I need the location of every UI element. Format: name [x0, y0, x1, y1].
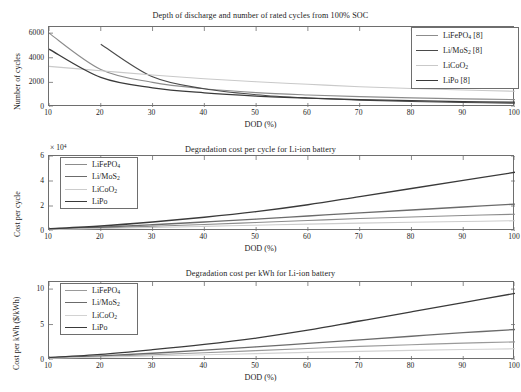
legend-item[interactable]: Li/MoS2	[61, 171, 137, 184]
legend-line-swatch	[416, 35, 438, 36]
y-tick-label: 4	[0, 176, 44, 185]
x-tick-label: 90	[458, 232, 466, 241]
x-tick-label: 40	[200, 232, 208, 241]
x-tick-label: 70	[355, 108, 363, 117]
legend-label: LiFePO4	[92, 160, 120, 169]
legend-item[interactable]: LiPo	[61, 322, 137, 335]
panel3-x-axis-label: DOD (%)	[0, 373, 521, 382]
x-tick-label: 50	[251, 232, 259, 241]
legend-item[interactable]: LiFePO4 [8]	[412, 28, 518, 43]
x-tick-label: 60	[303, 232, 311, 241]
x-tick-label: 70	[355, 361, 363, 370]
legend-line-swatch	[65, 327, 87, 328]
legend-item[interactable]: LiCoO2	[412, 58, 518, 73]
y-tick-label: 0	[0, 102, 44, 111]
x-tick-label: 70	[355, 232, 363, 241]
y-tick-label: 5	[0, 319, 44, 328]
panel2-x-axis-label: DOD (%)	[0, 244, 521, 253]
legend-label: Li/MoS2	[92, 172, 120, 181]
legend-label: LiPo [8]	[443, 76, 470, 85]
legend-line-swatch	[65, 176, 87, 177]
panel3-legend[interactable]: LiFePO4Li/MoS2LiCoO2LiPo	[60, 283, 138, 335]
legend-line-swatch	[416, 50, 438, 51]
y-tick-label: 6000	[0, 28, 44, 37]
y-tick-label: 2	[0, 201, 44, 210]
legend-line-swatch	[65, 315, 87, 316]
legend-item[interactable]: LiPo	[61, 196, 137, 209]
x-tick-label: 20	[96, 232, 104, 241]
legend-item[interactable]: Li/MoS2 [8]	[412, 43, 518, 58]
panel1-legend[interactable]: LiFePO4 [8]Li/MoS2 [8]LiCoO2LiPo [8]	[411, 27, 519, 89]
legend-line-swatch	[416, 80, 438, 81]
legend-label: LiCoO2	[92, 185, 117, 194]
legend-label: Li/MoS2	[92, 298, 120, 307]
panel-cycles-vs-dod: Depth of discharge and number of rated c…	[0, 0, 521, 134]
x-tick-label: 100	[508, 232, 519, 241]
x-tick-label: 30	[148, 108, 156, 117]
x-tick-label: 20	[96, 361, 104, 370]
panel2-legend[interactable]: LiFePO4Li/MoS2LiCoO2LiPo	[60, 157, 138, 209]
x-tick-label: 40	[200, 108, 208, 117]
legend-label: LiCoO2	[92, 311, 117, 320]
panel1-x-axis-label: DOD (%)	[0, 120, 521, 129]
x-tick-label: 50	[251, 361, 259, 370]
y-tick-label: 0	[0, 226, 44, 235]
x-tick-label: 30	[148, 232, 156, 241]
x-tick-label: 90	[458, 108, 466, 117]
panel1-title: Depth of discharge and number of rated c…	[0, 11, 521, 20]
x-tick-label: 30	[148, 361, 156, 370]
panel2-exponent-power: 4	[64, 143, 67, 149]
x-tick-label: 100	[508, 361, 519, 370]
figure-three-panel-battery-degradation: Depth of discharge and number of rated c…	[0, 0, 521, 392]
x-tick-label: 20	[96, 108, 104, 117]
x-tick-label: 80	[407, 361, 415, 370]
x-tick-label: 80	[407, 232, 415, 241]
legend-line-swatch	[65, 201, 87, 202]
legend-label: LiFePO4	[92, 286, 120, 295]
series-line	[49, 349, 515, 358]
x-tick-label: 10	[44, 232, 52, 241]
legend-item[interactable]: LiCoO2	[61, 183, 137, 196]
panel3-title: Degradation cost per kWh for Li-ion batt…	[0, 269, 521, 278]
legend-line-swatch	[65, 302, 87, 303]
panel2-title: Degradation cost per cycle for Li-ion ba…	[0, 145, 521, 154]
y-tick-label: 6	[0, 151, 44, 160]
legend-label: LiPo	[92, 323, 108, 332]
x-tick-label: 60	[303, 361, 311, 370]
legend-item[interactable]: LiCoO2	[61, 309, 137, 322]
legend-item[interactable]: LiFePO4	[61, 284, 137, 297]
panel2-exponent-base: × 10	[50, 143, 64, 152]
legend-item[interactable]: LiPo [8]	[412, 73, 518, 88]
legend-item[interactable]: Li/MoS2	[61, 297, 137, 310]
legend-line-swatch	[65, 164, 87, 165]
legend-line-swatch	[65, 189, 87, 190]
y-tick-label: 0	[0, 355, 44, 364]
y-tick-label: 2000	[0, 77, 44, 86]
x-tick-label: 90	[458, 361, 466, 370]
legend-label: LiCoO2	[443, 61, 468, 70]
panel-cost-per-kwh: Degradation cost per kWh for Li-ion batt…	[0, 258, 521, 392]
x-tick-label: 100	[508, 108, 519, 117]
x-tick-label: 10	[44, 108, 52, 117]
x-tick-label: 40	[200, 361, 208, 370]
x-tick-label: 80	[407, 108, 415, 117]
legend-label: LiFePO4 [8]	[443, 31, 483, 40]
x-tick-label: 50	[251, 108, 259, 117]
panel2-y-exponent: × 104	[50, 143, 67, 152]
legend-line-swatch	[416, 65, 438, 66]
legend-item[interactable]: LiFePO4	[61, 158, 137, 171]
x-tick-label: 60	[303, 108, 311, 117]
legend-label: LiPo	[92, 197, 108, 206]
x-tick-label: 10	[44, 361, 52, 370]
legend-line-swatch	[65, 290, 87, 291]
legend-label: Li/MoS2 [8]	[443, 46, 482, 55]
y-tick-label: 10	[0, 284, 44, 293]
y-tick-label: 4000	[0, 52, 44, 61]
panel-cost-per-cycle: Degradation cost per cycle for Li-ion ba…	[0, 132, 521, 262]
